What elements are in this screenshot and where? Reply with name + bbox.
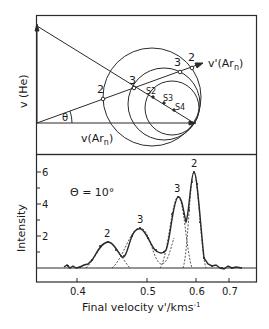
theta-annotation: Θ = 10°	[70, 186, 114, 199]
peak-label-2: 3	[137, 214, 143, 225]
y-tick-6: 6	[42, 167, 48, 178]
peak-label-4: 2	[191, 158, 197, 169]
center-s2	[152, 96, 154, 98]
marker-right-2	[190, 66, 194, 70]
arrowhead-icon	[195, 63, 203, 68]
marker-right-3	[178, 70, 182, 74]
v-ar-label: v(Arn)	[81, 132, 113, 147]
newton-diagram	[35, 16, 257, 155]
x-tick-0-4: 0.4	[70, 286, 86, 297]
x-tick-0-5: 0.5	[140, 286, 156, 297]
marker-left-2	[101, 97, 105, 101]
x-tick-0-7: 0.7	[222, 286, 238, 297]
y-tick-2: 2	[42, 231, 48, 242]
v-he-label: v (He)	[17, 74, 30, 108]
theta-label: θ	[62, 112, 68, 123]
y-ticks	[37, 172, 41, 252]
label-s3: S3	[163, 94, 173, 103]
v-prime-ar-label: v'(Arn)	[208, 57, 243, 72]
peak-label-1: 2	[104, 228, 110, 239]
spectrum-plot	[37, 155, 257, 283]
arrowhead-icon	[35, 24, 39, 31]
y-axis-label: Intensity	[15, 204, 28, 252]
theta-arc	[70, 111, 72, 123]
x-ticks	[77, 278, 229, 282]
point-label-center-3: 3	[129, 74, 136, 87]
x-axis-label: Final velocity v'/kms-1	[82, 301, 200, 314]
label-s4: S4	[175, 103, 185, 112]
figure: v (He) θ v(Arn) v'(Arn) 2 3 3 2 S2 S3 S4	[0, 0, 269, 329]
point-label-left-2: 2	[97, 83, 104, 96]
point-label-right-2: 2	[188, 51, 195, 64]
y-tick-4: 4	[42, 199, 48, 210]
peak-label-3: 3	[174, 183, 180, 194]
x-tick-0-6: 0.6	[189, 286, 205, 297]
top-panel-frame	[37, 16, 257, 155]
label-s2: S2	[146, 87, 156, 96]
bottom-panel-frame	[37, 155, 257, 283]
point-label-right-3: 3	[174, 56, 181, 69]
